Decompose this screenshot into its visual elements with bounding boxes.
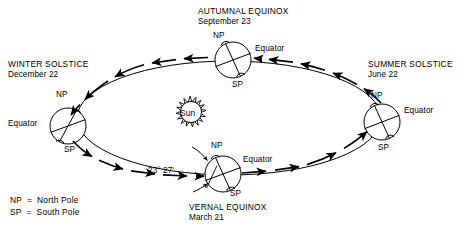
- label-autumnal-equinox-np: NP: [213, 31, 225, 41]
- label-winter-solstice-sp: SP: [64, 145, 75, 155]
- label-summer-solstice-equator: Equator: [404, 106, 433, 116]
- label-summer-solstice-np: NP: [371, 91, 383, 101]
- earth-orbit-seasons-diagram: AUTUMNAL EQUINOX September 23 NP Equator…: [0, 0, 460, 236]
- orbit-direction-arrows-bottom-right: [242, 132, 367, 173]
- label-vernal-equinox-name: VERNAL EQUINOX: [189, 202, 267, 212]
- label-vernal-equinox-np: NP: [211, 141, 223, 151]
- label-winter-solstice-name: WINTER SOLSTICE: [8, 59, 89, 69]
- label-summer-solstice-name: SUMMER SOLSTICE: [368, 59, 453, 69]
- legend-north-pole: NP = North Pole: [10, 194, 79, 206]
- earth-globe-vernal-equinox: [205, 155, 241, 192]
- label-summer-solstice-sp: SP: [378, 143, 389, 153]
- label-sun: Sun: [180, 108, 195, 118]
- label-winter-solstice-equator: Equator: [8, 119, 37, 129]
- orbit-direction-arrows-top-right: [254, 58, 381, 103]
- earth-globe-autumnal-equinox: [215, 41, 251, 78]
- earth-globe-summer-solstice: [364, 103, 400, 140]
- label-vernal-equinox-equator: Equator: [243, 155, 272, 165]
- label-autumnal-equinox-equator: Equator: [255, 44, 284, 54]
- label-autumnal-equinox-date: September 23: [198, 17, 251, 27]
- legend-south-pole: SP = South Pole: [10, 206, 80, 218]
- label-summer-solstice-date: June 22: [368, 70, 398, 80]
- label-axial-tilt-angle: 23° 27': [148, 166, 174, 176]
- label-winter-solstice-np: NP: [56, 90, 68, 100]
- label-autumnal-equinox-sp: SP: [232, 80, 243, 90]
- orbit-direction-arrows-bottom-left: [73, 141, 204, 176]
- label-winter-solstice-date: December 22: [8, 70, 58, 80]
- label-autumnal-equinox-name: AUTUMNAL EQUINOX: [198, 6, 289, 16]
- label-vernal-equinox-sp: SP: [230, 189, 241, 199]
- earth-globe-winter-solstice: [50, 108, 86, 144]
- label-vernal-equinox-date: March 21: [189, 213, 224, 223]
